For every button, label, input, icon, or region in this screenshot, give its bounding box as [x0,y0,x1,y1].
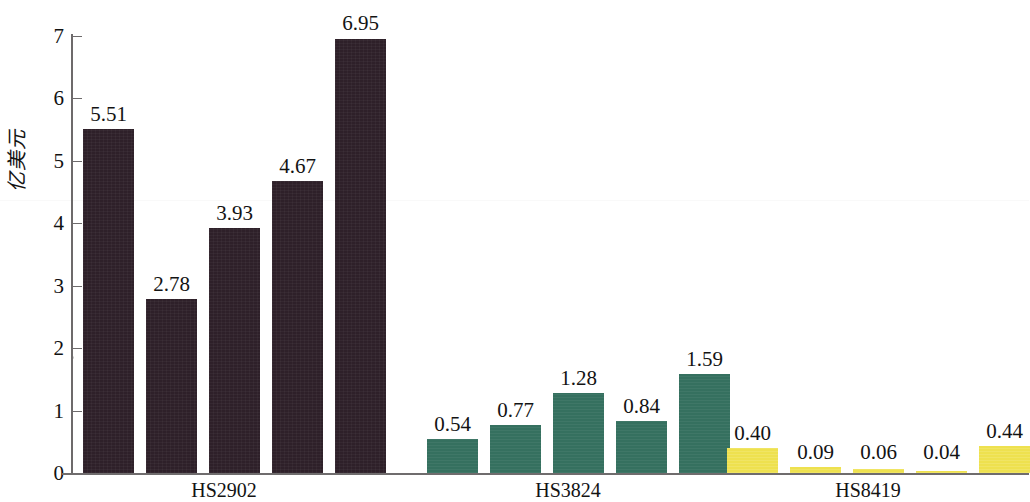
bar-hs2902-2 [146,299,197,473]
bar-hs3824-1 [427,439,478,473]
bar-value-hs2902-1: 5.51 [83,104,134,125]
bar-hs3824-3 [553,393,604,473]
x-axis-group-label-hs8419: HS8419 [727,479,1009,501]
bar-value-hs3824-1: 0.54 [427,414,478,435]
plot-area [72,36,1029,473]
y-tick-label-5: 5 [38,151,64,172]
y-tick-label-0: 0 [38,463,64,484]
y-tick-label-2: 2 [38,338,64,359]
bar-hs8419-5 [979,446,1030,473]
x-axis-group-label-hs2902: HS2902 [83,479,365,501]
bar-hs2902-5 [335,39,386,473]
bar-hs8419-1 [727,448,778,473]
bar-value-hs3824-5: 1.59 [679,349,730,370]
y-tick-label-3: 3 [38,276,64,297]
bar-value-hs2902-2: 2.78 [146,274,197,295]
bar-hs3824-5 [679,374,730,473]
y-tick-label-7: 7 [38,26,64,47]
bar-value-hs3824-4: 0.84 [616,396,667,417]
y-tick-label-1: 1 [38,401,64,422]
bar-hs3824-4 [616,421,667,473]
bar-value-hs8419-5: 0.44 [979,421,1030,442]
bar-hs8419-4 [916,471,967,473]
x-axis-group-label-hs3824: HS3824 [427,479,709,501]
bar-hs2902-4 [272,181,323,473]
bar-hs3824-2 [490,425,541,473]
bar-value-hs2902-4: 4.67 [272,156,323,177]
bar-value-hs3824-2: 0.77 [490,400,541,421]
bar-value-hs8419-4: 0.04 [916,442,967,463]
bar-value-hs2902-3: 3.93 [209,203,260,224]
bar-hs2902-1 [83,129,134,473]
bar-value-hs8419-1: 0.40 [727,423,778,444]
bar-value-hs2902-5: 6.95 [335,13,386,34]
bar-hs8419-2 [790,467,841,473]
x-axis-line [62,473,1029,475]
bar-hs2902-3 [209,228,260,473]
y-tick-label-4: 4 [38,213,64,234]
bar-value-hs8419-3: 0.06 [853,442,904,463]
y-axis-title: 亿美元 [6,129,28,192]
bar-value-hs8419-2: 0.09 [790,442,841,463]
bar-value-hs3824-3: 1.28 [553,368,604,389]
bar-hs8419-3 [853,469,904,473]
y-tick-label-6: 6 [38,88,64,109]
